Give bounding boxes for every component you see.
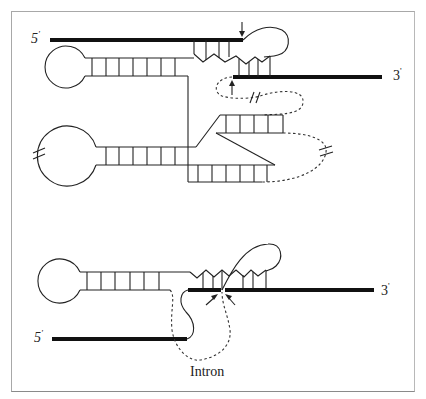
rna-structure-diagram xyxy=(0,0,426,399)
stem-loop-bottom xyxy=(38,259,190,303)
intron-label: Intron xyxy=(190,364,224,380)
bottom-3prime-label: 3' xyxy=(381,281,390,299)
bottom-5prime-label: 5' xyxy=(34,328,43,346)
top-splice-arrow-down xyxy=(239,22,245,37)
top-dashed-connector-2 xyxy=(262,133,326,182)
bottom-crossing-loop xyxy=(222,244,281,290)
top-zigzag-strand xyxy=(194,54,270,64)
bottom-splice-arrow-left xyxy=(206,294,218,305)
top-5prime-label: 5' xyxy=(31,29,40,47)
top-dashed-connector-1 xyxy=(216,77,303,115)
top-3prime-label: 3' xyxy=(393,66,402,84)
bottom-s-connector xyxy=(181,290,194,339)
bottom-panel xyxy=(38,244,374,360)
stem-loop-2 xyxy=(33,126,196,186)
break-mark-1 xyxy=(250,92,260,103)
helix-lower-right xyxy=(188,165,275,182)
top-exon-junction-loop xyxy=(243,27,288,57)
bottom-pairing-rungs xyxy=(203,270,266,290)
bottom-splice-arrow-right xyxy=(225,294,235,305)
intron-lariat-dashed xyxy=(170,290,230,360)
top-pairing-rungs-5prime xyxy=(194,40,229,60)
top-panel xyxy=(33,22,382,186)
diagram-figure: 5' 3' 5' 3' Intron xyxy=(0,0,426,399)
helix-upper-right xyxy=(196,115,283,165)
bottom-zigzag-strand xyxy=(190,270,266,278)
top-splice-arrow-up xyxy=(229,80,235,95)
